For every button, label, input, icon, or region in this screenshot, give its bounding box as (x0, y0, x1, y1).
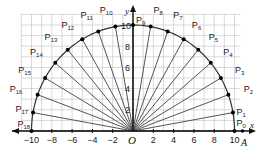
point-a (241, 129, 245, 133)
x-tick-label: 8 (212, 135, 217, 145)
point-label-p4: P4 (223, 47, 233, 58)
points: P0P1P2P3P4P5P6P7P8P9P10P11P12P13P14P15P1… (10, 5, 254, 133)
point-label-p0: P0 (237, 118, 247, 129)
point-label-p2: P2 (244, 84, 254, 95)
y-axis-label: y (124, 6, 129, 16)
point-p7 (166, 29, 170, 33)
point-label-p17: P17 (16, 104, 29, 115)
point-p13 (66, 48, 70, 52)
x-tick-label: −10 (24, 135, 39, 145)
x-axis-label: x (249, 120, 254, 130)
x-tick-label: 4 (171, 135, 176, 145)
point-a-label: A (240, 137, 248, 147)
point-label-p5: P5 (209, 32, 219, 43)
point-p5 (196, 48, 200, 52)
point-p17 (31, 111, 35, 115)
x-tick-label: 6 (191, 135, 196, 145)
point-p1 (231, 111, 235, 115)
origin-label: O (128, 134, 136, 146)
point-label-p6: P6 (192, 20, 202, 31)
point-p2 (226, 93, 230, 97)
point-p8 (149, 25, 153, 29)
point-label-p16: P16 (10, 84, 23, 95)
point-label-p15: P15 (18, 65, 31, 76)
point-label-p11: P11 (80, 10, 93, 21)
point-label-p1: P1 (237, 107, 247, 118)
y-tick-label: 4 (125, 84, 130, 94)
x-tick-label: −8 (47, 135, 57, 145)
point-label-p7: P7 (173, 10, 183, 21)
point-p14 (53, 61, 57, 65)
point-label-p3: P3 (235, 65, 245, 76)
y-tick-label: 10 (121, 21, 131, 31)
point-label-p12: P12 (61, 20, 74, 31)
point-label-p9: P9 (136, 15, 146, 26)
point-p12 (80, 37, 84, 41)
point-p10 (113, 25, 117, 29)
point-label-p10: P10 (100, 5, 113, 16)
y-axis-arrow-icon (130, 5, 136, 12)
point-p0 (233, 129, 237, 133)
point-label-p13: P13 (45, 32, 58, 43)
y-tick-label: 6 (125, 63, 130, 73)
point-p3 (219, 76, 223, 80)
y-tick-label: 8 (125, 42, 130, 52)
semicircle-diagram: −10−8−6−4−2246810246810 P0P1P2P3P4P5P6P7… (0, 0, 270, 147)
point-p6 (182, 37, 186, 41)
x-tick-label: 10 (229, 135, 239, 145)
point-label-p8: P8 (153, 5, 163, 16)
point-p16 (36, 93, 40, 97)
y-tick-label: 2 (125, 105, 130, 115)
x-tick-label: −4 (87, 135, 97, 145)
point-p15 (43, 76, 47, 80)
x-tick-label: −6 (67, 135, 77, 145)
point-p9 (131, 23, 135, 27)
x-tick-label: −2 (108, 135, 118, 145)
point-p4 (209, 61, 213, 65)
x-tick-label: 2 (151, 135, 156, 145)
point-p11 (96, 29, 100, 33)
